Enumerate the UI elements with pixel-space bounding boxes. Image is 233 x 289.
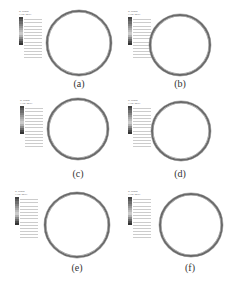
colorbar-ticks [20, 197, 38, 238]
legend-subtitle: (Avg: 75%) [19, 13, 47, 16]
ring-contour-b [149, 14, 211, 76]
colorbar-ticks [133, 197, 151, 238]
colorbar [128, 17, 132, 58]
ring-contour-c [47, 98, 109, 160]
colorbar-ticks [133, 106, 151, 147]
colorbar [15, 197, 19, 238]
panel-label-d: (d) [165, 168, 195, 179]
ring-contour-d [151, 101, 211, 161]
colorbar [128, 197, 132, 238]
colorbar-ticks [24, 17, 42, 58]
colorbar [128, 106, 132, 147]
ring-contour-a [46, 10, 112, 76]
legend-subtitle: (Avg: 75%) [128, 13, 156, 16]
legend-subtitle: (Avg: 75%) [128, 193, 156, 196]
legend-f: S, Mises(Avg: 75%) [128, 190, 156, 238]
legend-e: S, Mises(Avg: 75%) [15, 190, 43, 238]
legend-subtitle: (Avg: 75%) [128, 102, 156, 105]
colorbar-ticks [133, 17, 151, 58]
panel-label-a: (a) [64, 78, 94, 89]
panel-label-b: (b) [165, 78, 195, 89]
legend-subtitle: (Avg: 75%) [20, 102, 48, 105]
legend-c: S, Mises(Avg: 75%) [20, 99, 48, 147]
panel-label-c: (c) [63, 168, 93, 179]
ring-contour-f [159, 193, 223, 257]
ring-contour-e [44, 192, 110, 258]
panel-label-f: (f) [175, 262, 205, 273]
panel-label-e: (e) [62, 262, 92, 273]
colorbar-ticks [25, 106, 43, 147]
colorbar [19, 17, 23, 58]
legend-subtitle: (Avg: 75%) [15, 193, 43, 196]
legend-a: S, Mises(Avg: 75%) [19, 10, 47, 58]
colorbar [20, 106, 24, 147]
